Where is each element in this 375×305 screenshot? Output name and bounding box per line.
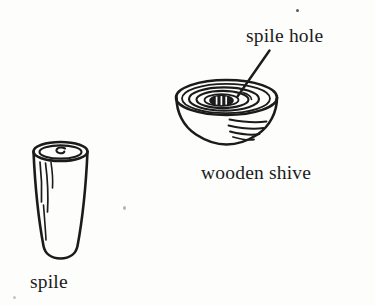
shive-side-shading: [229, 120, 267, 140]
label-spile-hole: spile hole: [246, 26, 323, 46]
scan-speck: [123, 206, 126, 210]
spile-grain-lines: [40, 162, 53, 240]
figure-canvas: spile hole wooden shive spile: [0, 0, 375, 305]
spile-top-spiral-mark: [56, 147, 65, 153]
spile-body-outline: [34, 152, 88, 259]
label-wooden-shive: wooden shive: [201, 163, 311, 183]
spile-hole-leader-line: [238, 51, 270, 97]
spile-drawing: [34, 142, 88, 259]
scan-speck: [13, 296, 16, 299]
scan-speck: [296, 9, 299, 12]
wooden-shive-drawing: [176, 80, 277, 145]
label-spile: spile: [30, 272, 68, 292]
